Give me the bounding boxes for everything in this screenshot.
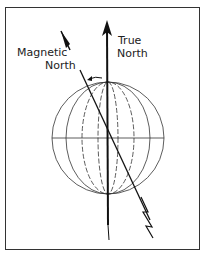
rotation-arrowhead-icon (87, 76, 92, 81)
globe-diagram (0, 0, 202, 254)
magnetic-north-label-1: Magnetic (17, 47, 67, 58)
true-north-label-2: North (117, 48, 148, 59)
magnetic-north-label-2: North (45, 60, 76, 71)
true-north-label-1: True (118, 35, 141, 46)
true-north-axis (102, 20, 112, 240)
